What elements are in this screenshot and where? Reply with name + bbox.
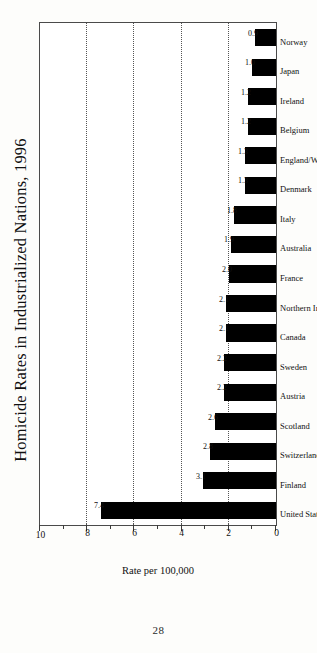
bar-value-label: 2.6 [207, 414, 217, 422]
y-axis-tick-label: 0 [271, 531, 281, 551]
y-axis-tick-label: 2 [224, 531, 234, 551]
category-label: Denmark [280, 185, 312, 194]
figure-inner: Homicide Rates in Industrialized Nations… [9, 0, 309, 600]
y-axis-tick-label: 10 [35, 531, 45, 551]
bar: 2.8Switzerland [209, 443, 275, 460]
bar: 1.3England/Wales [245, 147, 276, 164]
category-label: Switzerland [280, 451, 318, 460]
bar-value-label: 1.9 [224, 236, 234, 244]
y-axis-tick-minor [62, 525, 63, 529]
bar: 3.1Finland [202, 472, 275, 489]
y-axis-tick-label-text: 10 [35, 531, 45, 541]
y-axis-tick-minor [204, 525, 205, 529]
y-axis-tick-label-text: 8 [84, 529, 89, 539]
bar-value-label: 1.2 [240, 89, 250, 97]
bar: 2.1Northern Ireland [226, 295, 276, 312]
bar-value-label: 1.0 [245, 59, 255, 67]
bar: 0.9Norway [254, 29, 275, 46]
figure-rotated-container: Homicide Rates in Industrialized Nations… [9, 0, 309, 600]
category-label: Canada [280, 333, 306, 342]
y-axis-tick-minor [109, 525, 110, 529]
bar: 2.2Sweden [224, 354, 276, 371]
bar-value-label: 1.8 [226, 207, 236, 215]
category-label: Norway [280, 38, 307, 47]
category-label: Austria [280, 392, 305, 401]
book-page: Homicide Rates in Industrialized Nations… [0, 0, 317, 653]
bar: 1.3Denmark [245, 177, 276, 194]
bar-value-label: 2.1 [219, 325, 229, 333]
bar: 1.9Australia [231, 236, 276, 253]
category-label: Australia [280, 244, 311, 253]
bar: 1.8Italy [233, 206, 275, 223]
plot-area: 7.4United States3.1Finland2.8Switzerland… [40, 23, 276, 525]
bar: 2.1Canada [226, 325, 276, 342]
bar-value-label: 2.2 [217, 355, 227, 363]
category-label: Japan [280, 67, 299, 76]
y-axis-tick-label-text: 0 [273, 529, 278, 539]
bar-value-label: 2.8 [202, 443, 212, 451]
category-label: Northern Ireland [280, 304, 318, 313]
bar-value-label: 1.2 [240, 118, 250, 126]
category-label: Scotland [280, 422, 310, 431]
bar-value-label: 3.1 [195, 473, 205, 481]
bar-value-label: 2.1 [219, 296, 229, 304]
bar-value-label: 7.4 [94, 502, 104, 510]
y-axis-tick-label-text: 6 [132, 529, 137, 539]
y-axis-tick-label: 6 [129, 531, 139, 551]
bar-value-label: 1.3 [238, 148, 248, 156]
category-label: England/Wales [280, 156, 318, 165]
y-axis-tick-label-text: 4 [179, 529, 184, 539]
bar-value-label: 0.9 [247, 30, 257, 38]
bar: 1.2Ireland [247, 88, 275, 105]
gridline [86, 23, 87, 525]
gridline [133, 23, 134, 525]
y-axis-tick-label: 8 [82, 531, 92, 551]
category-label: Italy [280, 215, 296, 224]
y-axis-tick-minor [251, 525, 252, 529]
y-axis-title: Rate per 100,000 [152, 534, 163, 606]
bar: 2.6Scotland [214, 413, 275, 430]
y-axis-tick-label: 4 [176, 531, 186, 551]
category-label: United States [280, 510, 318, 519]
category-label: France [280, 274, 303, 283]
gridline [180, 23, 181, 525]
y-axis-tick-label-text: 2 [226, 529, 231, 539]
bar: 7.4United States [101, 502, 276, 519]
y-axis-title-label: Rate per 100,000 [121, 565, 193, 576]
bar-value-label: 2.2 [217, 384, 227, 392]
bar: 1.0Japan [252, 59, 276, 76]
plot-frame: 7.4United States3.1Finland2.8Switzerland… [39, 22, 277, 526]
bar: 1.2Belgium [247, 118, 275, 135]
bar-value-label: 1.3 [238, 177, 248, 185]
bar: 2.0France [228, 265, 275, 282]
category-label: Ireland [280, 97, 304, 106]
y-axis-tick-minor [157, 525, 158, 529]
bar: 2.2Austria [224, 384, 276, 401]
category-label: Sweden [280, 363, 307, 372]
page-folio: 28 [0, 624, 317, 636]
chart-title: Homicide Rates in Industrialized Nations… [11, 0, 31, 600]
category-label: Finland [280, 481, 306, 490]
bar-value-label: 2.0 [221, 266, 231, 274]
category-label: Belgium [280, 126, 309, 135]
